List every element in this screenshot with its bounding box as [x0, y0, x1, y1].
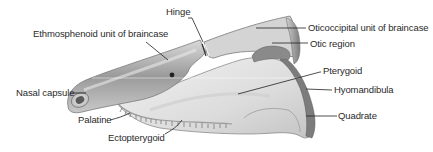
label-quadrate: Quadrate	[338, 110, 377, 121]
label-palatine: Palatine	[78, 114, 112, 125]
label-ectopterygoid: Ectopterygoid	[108, 132, 165, 143]
skull-diagram: Hinge Ethmosphenoid unit of braincase Ot…	[0, 0, 433, 152]
oticoccipital-unit	[202, 16, 300, 64]
label-nasal-capsule: Nasal capsule	[16, 87, 74, 98]
label-hyomandibula: Hyomandibula	[334, 84, 394, 95]
label-hinge: Hinge	[166, 6, 190, 17]
label-otic-region: Otic region	[310, 38, 355, 49]
label-pterygoid: Pterygoid	[323, 65, 362, 76]
label-ethmosphenoid-unit: Ethmosphenoid unit of braincase	[33, 28, 168, 39]
label-oticoccipital-unit: Oticoccipital unit of braincase	[308, 22, 428, 33]
